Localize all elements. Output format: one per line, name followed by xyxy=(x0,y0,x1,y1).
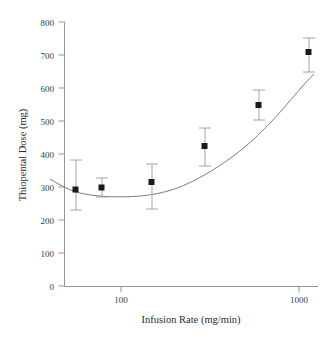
data-point-group xyxy=(146,164,158,209)
y-tick-label-300: 300 xyxy=(41,183,55,193)
thiopental-dose-vs-infusion-rate-chart: 800 700 600 500 400 300 200 100 0 Thiope… xyxy=(0,0,329,337)
y-tick-label-600: 600 xyxy=(41,84,55,94)
data-point-group xyxy=(70,160,82,210)
data-marker xyxy=(149,179,155,185)
data-point-group xyxy=(96,178,108,197)
data-marker xyxy=(99,185,105,191)
y-tick-label-400: 400 xyxy=(41,150,55,160)
data-point-group xyxy=(253,90,265,120)
y-tick-label-500: 500 xyxy=(41,117,55,127)
data-point-group xyxy=(303,38,315,72)
x-axis-title: Infusion Rate (mg/min) xyxy=(141,314,241,326)
data-marker xyxy=(256,102,262,108)
data-marker xyxy=(202,143,208,149)
data-point-group xyxy=(199,128,211,166)
x-tick-label-1000: 1000 xyxy=(290,295,309,305)
y-tick-label-800: 800 xyxy=(41,18,55,28)
y-tick-label-700: 700 xyxy=(41,51,55,61)
y-tick-label-100: 100 xyxy=(41,249,55,259)
y-axis-title: Thiopental Dose (mg) xyxy=(17,108,29,201)
y-tick-label-0: 0 xyxy=(50,282,55,292)
y-tick-label-200: 200 xyxy=(41,216,55,226)
data-marker xyxy=(306,49,312,55)
fitted-curve xyxy=(50,74,314,197)
data-marker xyxy=(73,187,79,193)
x-tick-label-100: 100 xyxy=(114,295,128,305)
